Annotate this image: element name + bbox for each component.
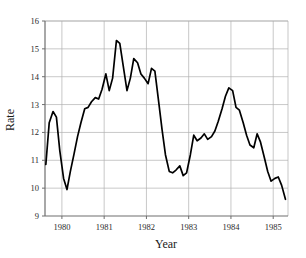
y-tick-label: 11	[31, 155, 39, 165]
y-tick-label: 12	[31, 127, 40, 137]
y-tick-label: 15	[31, 44, 40, 54]
x-tick-label: 1984	[222, 222, 240, 232]
x-tick-label: 1982	[138, 222, 155, 232]
chart-canvas: 910111213141516 198019811982198319841985…	[0, 0, 306, 258]
y-axis-title: Rate	[3, 109, 17, 131]
y-tick-label: 16	[31, 16, 40, 26]
x-tick-label: 1981	[96, 222, 113, 232]
y-tick-label: 10	[31, 183, 40, 193]
x-axis-title: Year	[155, 237, 177, 251]
chart-background	[0, 0, 306, 258]
x-tick-label: 1985	[265, 222, 282, 232]
y-tick-label: 9	[35, 211, 39, 221]
rate-vs-year-line-chart: 910111213141516 198019811982198319841985…	[0, 0, 306, 258]
x-tick-label: 1980	[53, 222, 70, 232]
y-tick-label: 14	[31, 72, 40, 82]
y-tick-label: 13	[31, 100, 40, 110]
x-tick-label: 1983	[180, 222, 197, 232]
